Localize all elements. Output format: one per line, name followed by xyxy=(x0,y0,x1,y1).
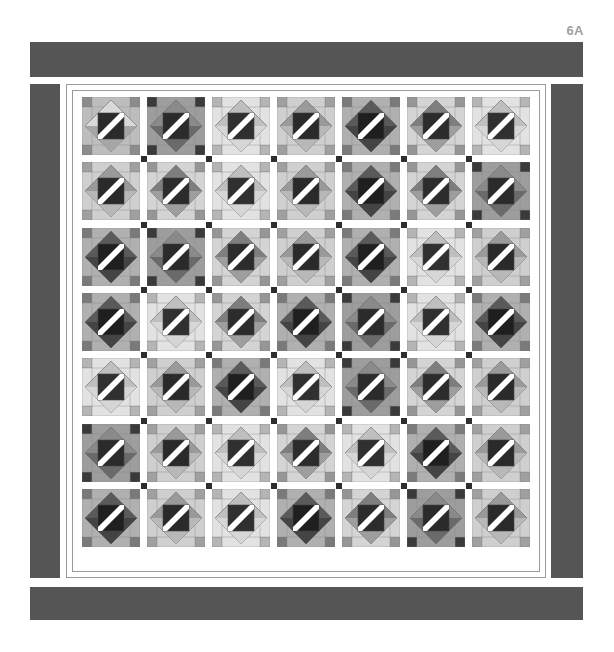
figure-label: 6A xyxy=(566,23,584,38)
quilt-block xyxy=(472,424,530,482)
quilt-block xyxy=(212,228,270,286)
quilt-block xyxy=(212,97,270,155)
quilt-block xyxy=(147,489,205,547)
sashing-post xyxy=(206,156,212,162)
quilt-block xyxy=(147,228,205,286)
quilt-block xyxy=(147,162,205,220)
sashing-post xyxy=(466,352,472,358)
border-left xyxy=(30,84,60,578)
sashing-post xyxy=(401,352,407,358)
sashing-post xyxy=(141,287,147,293)
quilt-block xyxy=(82,97,140,155)
sashing-post xyxy=(141,222,147,228)
sashing-post xyxy=(401,287,407,293)
quilt-block xyxy=(407,424,465,482)
sashing-post xyxy=(271,483,277,489)
quilt-block xyxy=(342,424,400,482)
quilt-grid xyxy=(78,93,534,551)
sashing-post xyxy=(141,483,147,489)
sashing-post xyxy=(141,418,147,424)
quilt-block xyxy=(407,358,465,416)
quilt-block xyxy=(472,97,530,155)
quilt-block xyxy=(212,424,270,482)
quilt-block xyxy=(212,162,270,220)
quilt-block xyxy=(342,293,400,351)
sashing-post xyxy=(466,287,472,293)
quilt-block xyxy=(147,293,205,351)
quilt-block xyxy=(212,489,270,547)
sashing-post xyxy=(271,287,277,293)
quilt-block xyxy=(277,162,335,220)
sashing-post xyxy=(206,418,212,424)
sashing-post xyxy=(466,483,472,489)
quilt-block xyxy=(342,162,400,220)
quilt-block xyxy=(407,489,465,547)
sashing-post xyxy=(466,156,472,162)
sashing-post xyxy=(141,156,147,162)
sashing-post xyxy=(401,222,407,228)
quilt-block xyxy=(277,489,335,547)
quilt-block xyxy=(82,162,140,220)
sashing-post xyxy=(401,483,407,489)
quilt-block xyxy=(342,358,400,416)
sashing-post xyxy=(206,222,212,228)
quilt-block xyxy=(277,97,335,155)
sashing-post xyxy=(336,418,342,424)
sashing-post xyxy=(401,156,407,162)
sashing-post xyxy=(206,352,212,358)
quilt-block xyxy=(82,228,140,286)
quilt-block xyxy=(212,358,270,416)
quilt-block xyxy=(147,97,205,155)
quilt-block xyxy=(147,424,205,482)
quilt-block xyxy=(407,162,465,220)
border-bottom xyxy=(30,587,583,620)
quilt-block xyxy=(277,293,335,351)
sashing-post xyxy=(271,418,277,424)
quilt-block xyxy=(82,424,140,482)
sashing-post xyxy=(206,287,212,293)
sashing-post xyxy=(336,156,342,162)
quilt-block xyxy=(82,489,140,547)
quilt-block xyxy=(82,293,140,351)
quilt-block xyxy=(147,358,205,416)
sashing-post xyxy=(271,222,277,228)
sashing-post xyxy=(206,483,212,489)
sashing-post xyxy=(336,287,342,293)
sashing-post xyxy=(466,418,472,424)
border-right xyxy=(551,84,583,578)
sashing-post xyxy=(466,222,472,228)
quilt-block xyxy=(407,97,465,155)
quilt-block xyxy=(472,358,530,416)
quilt-block xyxy=(82,358,140,416)
quilt-block xyxy=(212,293,270,351)
quilt-block xyxy=(472,293,530,351)
sashing-post xyxy=(336,222,342,228)
quilt-block xyxy=(277,358,335,416)
quilt-block xyxy=(407,228,465,286)
quilt-block xyxy=(407,293,465,351)
sashing-post xyxy=(271,352,277,358)
quilt-block xyxy=(277,228,335,286)
sashing-post xyxy=(271,156,277,162)
quilt-block xyxy=(342,228,400,286)
sashing-post xyxy=(141,352,147,358)
sashing-post xyxy=(336,483,342,489)
quilt-block xyxy=(472,162,530,220)
sashing-post xyxy=(401,418,407,424)
quilt-block xyxy=(342,97,400,155)
quilt-block xyxy=(277,424,335,482)
quilt-block xyxy=(472,489,530,547)
sashing-post xyxy=(336,352,342,358)
quilt-block xyxy=(472,228,530,286)
quilt-block xyxy=(342,489,400,547)
border-top xyxy=(30,42,583,77)
